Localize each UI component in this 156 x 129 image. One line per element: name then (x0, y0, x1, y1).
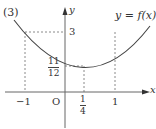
y-min-denominator: 12 (48, 69, 59, 78)
x-quarter-fraction: 1 4 (80, 95, 86, 116)
curve-label: y = f(x) (115, 10, 156, 21)
parabola-curve (14, 20, 150, 68)
y-axis-arrow-icon (63, 7, 68, 15)
origin-label: O (52, 97, 60, 107)
x-axis-label: x (150, 85, 156, 95)
y-axis-label: y (69, 5, 75, 15)
dashed-guides (25, 32, 115, 92)
x-axis-arrow-icon (142, 90, 150, 95)
y-min-numerator: 11 (48, 57, 59, 66)
y-min-fraction: 11 12 (48, 57, 59, 78)
y-tick-3: 3 (69, 27, 75, 37)
x-quarter-denominator: 4 (80, 107, 86, 116)
x-quarter-numerator: 1 (80, 95, 86, 104)
x-tick-neg1: −1 (16, 97, 31, 107)
problem-number-label: (3) (3, 7, 19, 18)
x-tick-1: 1 (112, 97, 118, 107)
function-graph-figure: (3) y y = f(x) 3 11 12 x −1 O 1 4 1 (0, 0, 156, 129)
